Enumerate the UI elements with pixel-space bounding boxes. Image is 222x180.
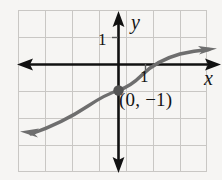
y-tick-label-1: 1 xyxy=(98,31,107,48)
plot-background xyxy=(0,0,222,180)
y-axis-label: y xyxy=(131,12,140,32)
x-axis-label: x xyxy=(204,68,213,88)
plot-canvas xyxy=(0,0,222,180)
point-coordinate-label: (0, −1) xyxy=(119,90,172,109)
x-tick-label-1: 1 xyxy=(140,68,149,85)
graph-figure: y x 1 1 (0, −1) xyxy=(0,0,222,180)
